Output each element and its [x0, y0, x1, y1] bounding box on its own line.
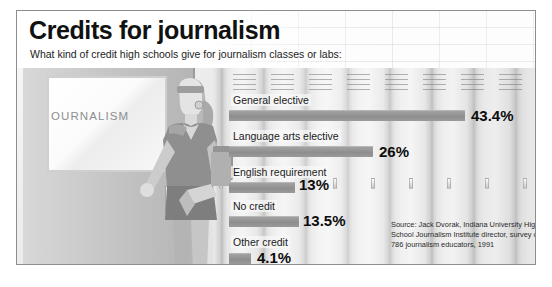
bar-language-arts-elective: [229, 146, 373, 157]
header-band: Credits for journalism What kind of cred…: [17, 11, 535, 68]
bar-general-elective: [229, 110, 465, 121]
bar-no-credit: [229, 216, 299, 227]
bar-category-label: No credit: [231, 200, 277, 212]
bar-category-label: General elective: [231, 94, 311, 106]
bar-english-requirement: [229, 182, 295, 193]
bar-value-label: 43.4%: [471, 107, 514, 124]
page-title: Credits for journalism: [29, 16, 280, 45]
bar-value-label: 13%: [299, 176, 329, 193]
bar-category-label: Other credit: [231, 236, 290, 248]
bar-value-label: 26%: [379, 143, 409, 160]
source-citation: Source: Jack Dvorak, Indiana University …: [391, 220, 535, 249]
illustration-scene: OURNALISM: [17, 68, 535, 264]
bar-other-credit: [229, 253, 251, 264]
bar-value-label: 4.1%: [257, 249, 291, 264]
bar-chart: General elective 43.4% Language arts ele…: [223, 68, 535, 264]
page-subtitle: What kind of credit high schools give fo…: [30, 48, 342, 60]
bar-category-label: Language arts elective: [231, 130, 341, 142]
bar-value-label: 13.5%: [303, 212, 346, 229]
infographic-panel: Credits for journalism What kind of cred…: [16, 10, 536, 265]
door-sign-label: OURNALISM: [51, 110, 129, 122]
